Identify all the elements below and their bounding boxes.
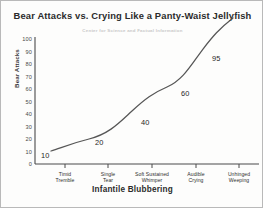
x-tick-label-unhinged-weeping: Unhinged Weeping: [211, 171, 263, 184]
x-axis-title: Infantile Blubbering: [1, 185, 263, 194]
point-label-0: 10: [41, 151, 49, 160]
point-label-3: 60: [181, 89, 189, 98]
point-label-1: 20: [95, 138, 103, 147]
chart-card: Bear Attacks vs. Crying Like a Panty-Wai…: [0, 0, 263, 208]
x-tick-label-line2: Weeping: [211, 177, 263, 183]
data-line-series: [51, 18, 233, 151]
point-label-4: 95: [212, 54, 220, 63]
point-label-2: 40: [141, 118, 149, 127]
